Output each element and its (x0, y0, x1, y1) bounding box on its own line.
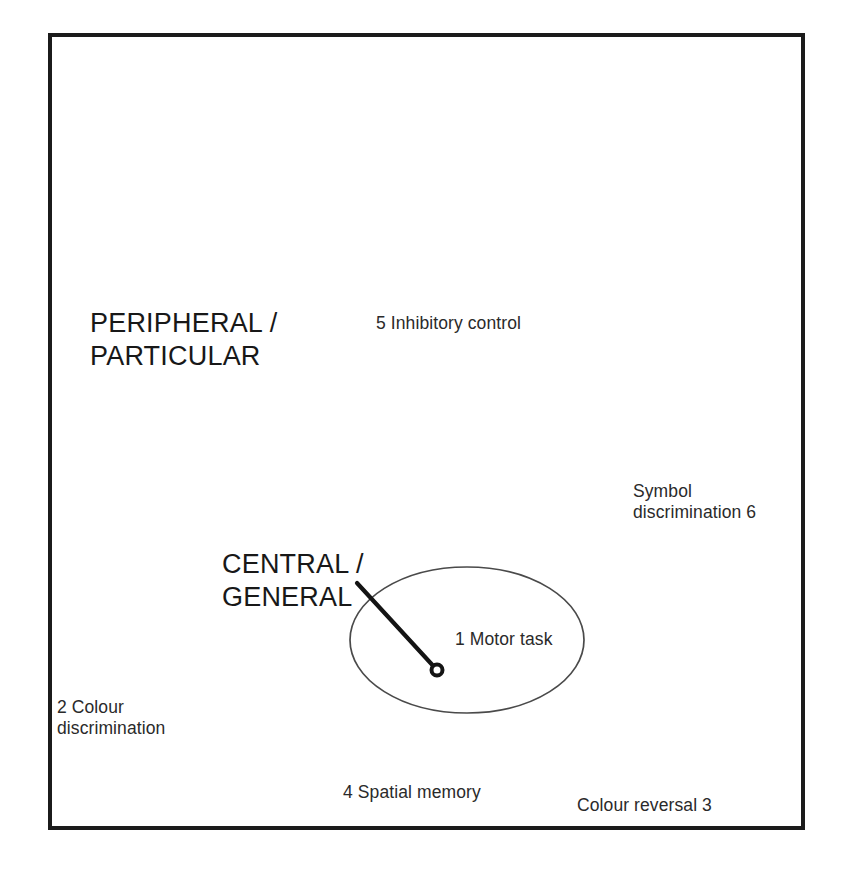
axis-pole-central-general: CENTRAL / GENERAL (222, 548, 364, 614)
task-label-inhibitory-control: 5 Inhibitory control (376, 313, 521, 334)
task-label-symbol-discrimination: Symbol discrimination 6 (633, 481, 756, 524)
task-label-spatial-memory: 4 Spatial memory (343, 782, 481, 803)
task-label-colour-discrimination: 2 Colour discrimination (57, 697, 165, 740)
scan-canvas: PERIPHERAL / PARTICULAR CENTRAL / GENERA… (0, 0, 848, 871)
task-label-motor-task: 1 Motor task (455, 629, 552, 650)
axis-pole-peripheral-particular: PERIPHERAL / PARTICULAR (90, 307, 277, 373)
task-label-colour-reversal: Colour reversal 3 (577, 795, 712, 816)
